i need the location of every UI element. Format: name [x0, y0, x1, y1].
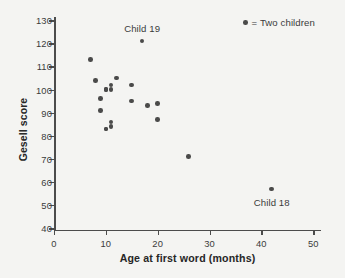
y-tick-label: 60 [41, 176, 52, 187]
y-axis-line [54, 17, 56, 231]
x-tick-mark [210, 230, 211, 235]
y-tick-label: 90 [41, 107, 52, 118]
y-tick-label: 40 [41, 223, 52, 234]
x-tick-mark [54, 230, 55, 235]
data-point [186, 154, 191, 159]
x-tick-label: 20 [152, 238, 163, 249]
gesell-score-scatter-chart: 405060708090100110120130 01020304050 Ges… [0, 0, 345, 278]
y-tick-label: 50 [41, 200, 52, 211]
y-tick-label: 100 [36, 84, 52, 95]
x-tick-label: 50 [308, 238, 319, 249]
x-axis-line [54, 230, 321, 232]
data-point [109, 124, 114, 129]
data-point [88, 57, 93, 62]
x-tick-mark [261, 230, 262, 235]
x-tick-label: 40 [256, 238, 267, 249]
y-tick-label: 110 [37, 61, 52, 72]
data-point [98, 96, 103, 101]
point-annotation-label: Child 18 [254, 197, 290, 208]
plot-area: 405060708090100110120130 01020304050 Ges… [0, 0, 345, 278]
legend-dot-icon [243, 20, 248, 25]
data-point [104, 127, 109, 132]
data-point [109, 120, 114, 125]
data-point [109, 83, 114, 88]
data-point [155, 101, 160, 106]
y-tick-label: 70 [41, 153, 52, 164]
x-tick-label: 0 [51, 238, 56, 249]
x-tick-mark [158, 230, 159, 235]
data-point [145, 103, 150, 108]
x-tick-mark [313, 230, 314, 235]
data-point [269, 187, 274, 192]
data-point [129, 99, 134, 104]
data-point [140, 39, 145, 44]
data-point [129, 83, 134, 88]
data-point [93, 78, 98, 83]
y-axis-title: Gesell score [18, 60, 29, 200]
y-tick-label: 130 [36, 15, 52, 26]
data-point [155, 117, 160, 122]
legend-label: = Two children [252, 17, 315, 28]
point-annotation-label: Child 19 [124, 23, 160, 34]
y-tick-label: 80 [41, 130, 52, 141]
x-tick-label: 10 [101, 238, 112, 249]
y-tick-label: 120 [36, 38, 52, 49]
x-tick-mark [106, 230, 107, 235]
data-point [114, 76, 119, 81]
legend: = Two children [243, 17, 315, 28]
data-point [109, 87, 114, 92]
x-axis-title: Age at first word (months) [54, 252, 321, 264]
data-point [104, 87, 109, 92]
data-point [98, 108, 103, 113]
x-tick-label: 30 [204, 238, 215, 249]
